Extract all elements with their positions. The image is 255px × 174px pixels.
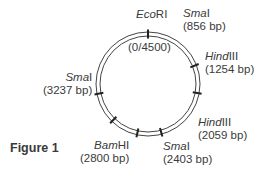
restriction-site-tick	[193, 92, 202, 94]
restriction-site-tick	[136, 128, 138, 137]
restriction-site-tick	[160, 128, 162, 137]
site-label-smai-3237: SmaI(3237 bp)	[43, 71, 92, 97]
plasmid-size-label: (0/4500)	[128, 41, 171, 54]
restriction-site-tick	[95, 93, 104, 95]
site-label-bamhi-2800: BamHI(2800 bp)	[80, 139, 129, 165]
site-label-hindiii-2059: HindIII(2059 bp)	[198, 116, 247, 142]
figure-caption: Figure 1	[10, 141, 59, 155]
site-label-ecori: EcoRI	[136, 8, 167, 21]
site-label-smai-856: SmaI(856 bp)	[183, 7, 226, 33]
site-label-hindiii-1254: HindIII(1254 bp)	[205, 50, 254, 76]
site-label-smai-2403: SmaI(2403 bp)	[163, 140, 212, 166]
